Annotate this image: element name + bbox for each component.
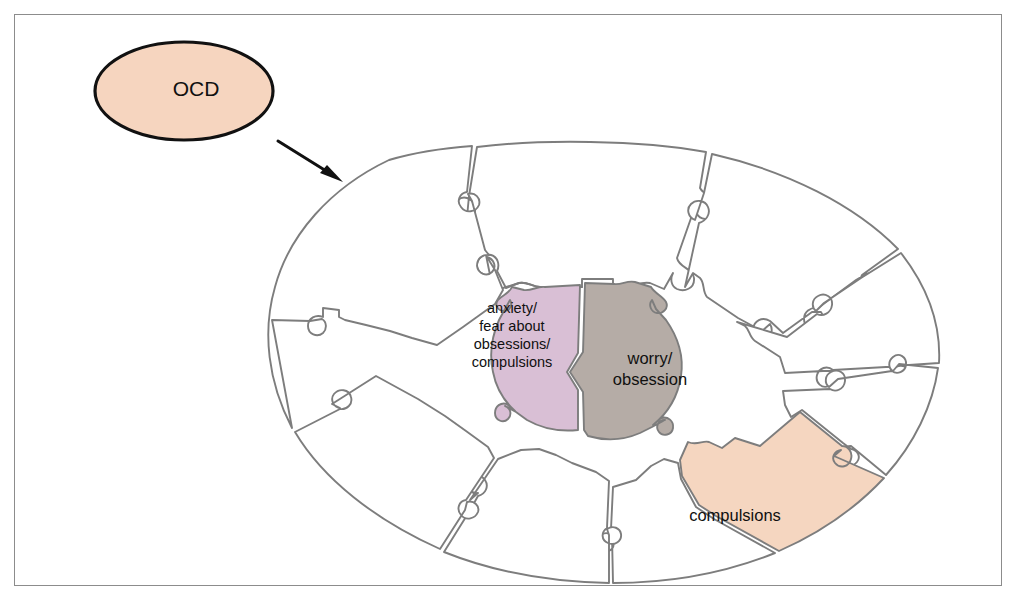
ocd-callout[interactable]: OCD [95, 42, 273, 140]
anxiety-label-line-3: obsessions/ [474, 336, 552, 352]
figure-page: anxiety/ fear about obsessions/ compulsi… [0, 0, 1017, 602]
worry-label-line-1: worry/ [627, 349, 673, 367]
arrow-to-wheel [278, 141, 343, 182]
anxiety-label-line-4: compulsions [472, 354, 553, 370]
diagram-canvas: anxiety/ fear about obsessions/ compulsi… [0, 0, 1017, 602]
worry-label-line-2: obsession [613, 370, 687, 388]
ocd-label: OCD [173, 77, 220, 100]
compulsions-label: compulsions [689, 506, 781, 524]
anxiety-label-line-2: fear about [479, 318, 544, 334]
arrow-shaft [278, 141, 331, 174]
anxiety-label-line-1: anxiety/ [487, 300, 538, 316]
